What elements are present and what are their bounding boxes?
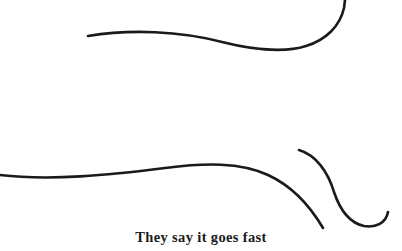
line-drawing-svg [0,0,402,251]
caption-text: They say it goes fast [0,228,402,246]
artwork-canvas: They say it goes fast [0,0,402,251]
